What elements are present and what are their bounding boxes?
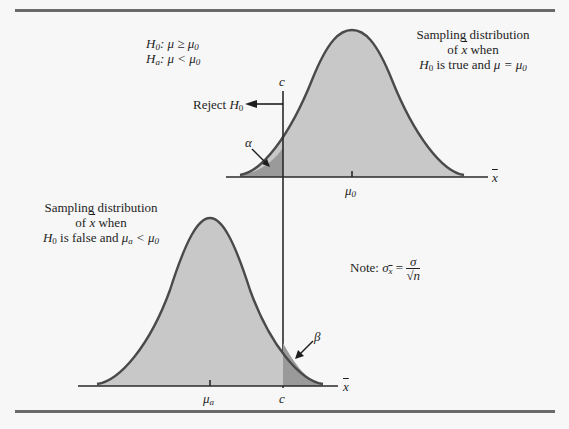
null-hypothesis: H0: μ ≥ μ0 [146, 36, 199, 51]
standard-error-note: Note: σx = σ√n [350, 255, 420, 283]
alternative-hypothesis: Ha: μ < μ0 [146, 51, 200, 66]
critical-value-label-bottom: c [279, 391, 285, 406]
alpha-arrow [252, 149, 266, 163]
beta-arrow [300, 341, 313, 354]
critical-value-label-top: c [279, 74, 285, 89]
mua-tick-label: μa [203, 391, 214, 406]
top-axis-label: x [492, 170, 498, 185]
alpha-label: α [245, 135, 252, 150]
sigma-over-root-n: σ√n [406, 255, 420, 283]
bottom-axis-label: x [343, 379, 349, 394]
bottom-distribution-caption: Sampling distribution of x when H0 is fa… [26, 200, 176, 245]
mu0-tick-label: μ0 [345, 183, 356, 198]
top-distribution-caption: Sampling distribution of x when H0 is tr… [398, 27, 548, 72]
reject-h0-label: Reject H0 [193, 97, 243, 112]
beta-label: β [314, 329, 320, 344]
reject-arrowhead-icon [245, 100, 257, 108]
beta-tail-fill [283, 343, 323, 386]
